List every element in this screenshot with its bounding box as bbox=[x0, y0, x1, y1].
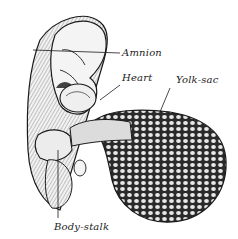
body-stalk-label: Body-stalk bbox=[54, 221, 109, 232]
yolk-sac-shape bbox=[70, 110, 226, 222]
heart-leader bbox=[100, 85, 120, 100]
heart-shape bbox=[60, 84, 96, 112]
embryo-illustration bbox=[0, 0, 238, 239]
yolk-sac-leader bbox=[160, 88, 170, 112]
heart-label: Heart bbox=[122, 72, 152, 83]
amnion-label: Amnion bbox=[122, 47, 162, 58]
yolk-sac-label: Yolk-sac bbox=[176, 74, 219, 85]
